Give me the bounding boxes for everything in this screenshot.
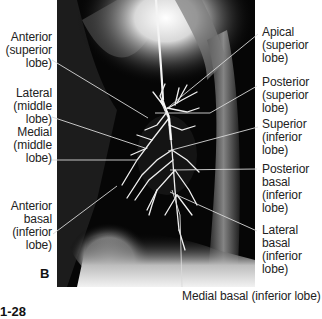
label-lateral-basal-inferior-lobe: Lateral basal (inferior lobe) <box>262 224 314 276</box>
label-line: lobe) <box>262 144 314 157</box>
label-line: lobe) <box>262 263 314 276</box>
label-apical-superior-lobe: Apical (superior lobe) <box>262 26 314 65</box>
xray-rendering <box>57 0 255 287</box>
figure-number: 1-28 <box>0 304 26 319</box>
label-posterior-basal-inferior-lobe: Posterior basal (inferior lobe) <box>262 163 314 215</box>
label-line: lobe) <box>262 52 314 65</box>
label-medial-middle-lobe: Medial (middle lobe) <box>0 126 52 165</box>
label-anterior-superior-lobe: Anterior (superior lobe) <box>0 31 52 70</box>
label-anterior-basal-inferior-lobe: Anterior basal (inferior lobe) <box>0 200 52 252</box>
label-posterior-superior-lobe: Posterior (superior lobe) <box>262 76 314 115</box>
panel-letter: B <box>40 266 49 281</box>
label-line: lobe) <box>0 57 52 70</box>
label-line: lobe) <box>262 202 314 215</box>
label-line: lobe) <box>262 102 314 115</box>
bronchogram-xray-image <box>57 0 255 287</box>
label-line: lobe) <box>0 239 52 252</box>
label-line: lobe) <box>0 152 52 165</box>
label-superior-inferior-lobe: Superior (inferior lobe) <box>262 118 314 157</box>
label-lateral-middle-lobe: Lateral (middle lobe) <box>0 87 52 126</box>
label-medial-basal-inferior-lobe: Medial basal (inferior lobe) <box>182 290 322 303</box>
